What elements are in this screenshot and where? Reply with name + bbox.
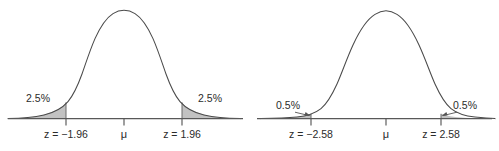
- z-label-left: z = −2.58: [289, 128, 333, 140]
- z-label-left: z = −1.96: [44, 128, 88, 140]
- right-arrow-head-icon: [441, 112, 447, 116]
- left-tail-percent-label: 2.5%: [26, 92, 50, 104]
- left-tail-percent-label: 0.5%: [276, 99, 300, 111]
- normal-curve-chart-1-96: 2.5% 2.5% z = −1.96 μ z = 1.96: [0, 0, 250, 151]
- mu-label: μ: [121, 128, 127, 140]
- normal-curve-chart-2-58: 0.5% 0.5% z = −2.58 μ z = 2.58: [249, 0, 499, 151]
- normal-distribution-figure: 2.5% 2.5% z = −1.96 μ z = 1.96: [0, 0, 499, 151]
- right-tail-percent-label: 2.5%: [198, 92, 222, 104]
- z-label-right: z = 1.96: [163, 128, 201, 140]
- chart-panel-right: 0.5% 0.5% z = −2.58 μ z = 2.58: [249, 0, 499, 151]
- mu-label: μ: [383, 128, 389, 140]
- z-label-right: z = 2.58: [422, 128, 460, 140]
- chart-panel-left: 2.5% 2.5% z = −1.96 μ z = 1.96: [0, 0, 250, 151]
- right-tail-percent-label: 0.5%: [453, 99, 477, 111]
